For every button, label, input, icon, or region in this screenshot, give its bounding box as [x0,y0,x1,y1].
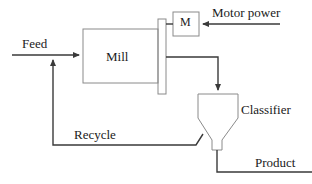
mill-label: Mill [106,50,128,63]
mill-discharge-line [166,57,218,90]
recycle-label: Recycle [74,128,116,141]
classifier-funnel [198,94,238,150]
motor-power-label: Motor power [212,6,280,19]
motor-label: M [180,16,191,28]
mill-flange [158,19,166,94]
process-flow-diagram: Feed Mill M Motor power Classifier Recyc… [0,0,312,184]
classifier-label: Classifier [241,103,291,116]
product-label: Product [255,156,295,169]
feed-label: Feed [22,37,47,50]
